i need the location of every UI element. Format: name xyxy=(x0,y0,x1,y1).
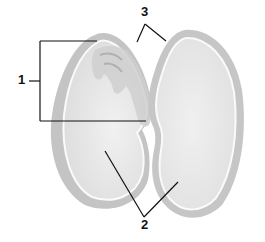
label-3: 3 xyxy=(141,5,148,18)
label-1: 1 xyxy=(18,73,25,86)
label-2: 2 xyxy=(141,218,148,231)
diagram-stage: 1 2 3 xyxy=(0,0,265,242)
label-3-leaders xyxy=(137,24,166,42)
seed-illustration xyxy=(0,0,265,242)
right-cotyledon xyxy=(156,38,235,209)
